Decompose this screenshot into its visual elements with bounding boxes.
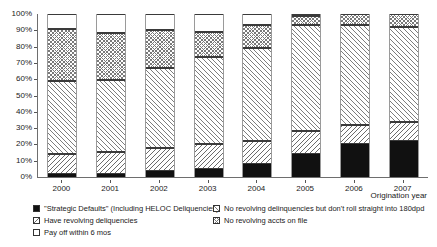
chart-legend: "Strategic Defaults" (Including HELOC De…	[33, 204, 433, 244]
bar-group	[242, 14, 272, 177]
y-tick-label: 50%	[16, 92, 32, 100]
x-tick-mark	[159, 180, 160, 183]
bar-segment[interactable]	[146, 68, 174, 149]
bar-segment[interactable]	[146, 30, 174, 67]
legend-item[interactable]: "Strategic Defaults" (Including HELOC De…	[33, 204, 219, 213]
bar-segment[interactable]	[195, 14, 223, 32]
bar-segment[interactable]	[341, 25, 369, 124]
bar-segment[interactable]	[97, 14, 125, 33]
bar-segment[interactable]	[390, 27, 418, 122]
bar-segment[interactable]	[146, 14, 174, 30]
plot-area	[37, 14, 428, 178]
bar-group	[389, 14, 419, 177]
legend-swatch-icon	[33, 229, 40, 236]
legend-item[interactable]: No revolving accts on file	[213, 216, 307, 225]
legend-swatch-icon	[213, 217, 220, 224]
bar-stack[interactable]	[242, 14, 272, 177]
bar-stack[interactable]	[340, 14, 370, 177]
bar-stack[interactable]	[194, 14, 224, 177]
y-tick-label: 30%	[16, 124, 32, 132]
legend-item-label: Have revolving deliquencies	[44, 216, 137, 225]
bar-segment[interactable]	[292, 131, 320, 154]
bar-segment[interactable]	[97, 152, 125, 174]
bar-segment[interactable]	[48, 14, 76, 29]
bar-group	[340, 14, 370, 177]
bar-segment[interactable]	[243, 48, 271, 141]
stacked-bar-chart: 0%10%20%30%40%50%60%70%80%90%100% 200020…	[0, 0, 437, 247]
legend-item-label: No revolving delinquencies but don't rol…	[224, 204, 424, 213]
y-tick-label: 70%	[16, 59, 32, 67]
bar-segment[interactable]	[195, 32, 223, 57]
bar-segment[interactable]	[146, 171, 174, 177]
x-tick-mark	[256, 180, 257, 183]
x-tick-mark	[208, 180, 209, 183]
bar-segment[interactable]	[390, 122, 418, 142]
bar-stack[interactable]	[291, 14, 321, 177]
bar-segment[interactable]	[243, 25, 271, 48]
bar-stack[interactable]	[47, 14, 77, 177]
bar-segment[interactable]	[292, 14, 320, 16]
legend-item[interactable]: No revolving delinquencies but don't rol…	[213, 204, 424, 213]
legend-item-label: No revolving accts on file	[224, 216, 307, 225]
bar-segment[interactable]	[341, 144, 369, 177]
bar-segment[interactable]	[243, 164, 271, 177]
x-tick-mark	[305, 180, 306, 183]
bar-stack[interactable]	[96, 14, 126, 177]
bar-group	[145, 14, 175, 177]
legend-swatch-icon	[213, 205, 220, 212]
bar-segment[interactable]	[341, 125, 369, 145]
legend-item-label: Pay off within 6 mos	[44, 228, 111, 237]
bar-segment[interactable]	[390, 14, 418, 27]
bar-segment[interactable]	[243, 14, 271, 25]
y-tick-label: 40%	[16, 108, 32, 116]
y-tick-label: 10%	[16, 157, 32, 165]
bar-segment[interactable]	[292, 25, 320, 131]
bar-segment[interactable]	[48, 29, 76, 81]
bar-segment[interactable]	[97, 33, 125, 80]
bar-segment[interactable]	[390, 141, 418, 177]
bars-layer	[38, 14, 428, 177]
x-axis-title: Origination year	[0, 191, 427, 200]
y-tick-label: 100%	[12, 10, 32, 18]
legend-item[interactable]: Have revolving deliquencies	[33, 216, 137, 225]
y-tick-label: 80%	[16, 43, 32, 51]
bar-segment[interactable]	[48, 174, 76, 177]
y-tick-label: 20%	[16, 140, 32, 148]
bar-group	[291, 14, 321, 177]
y-tick-label: 0%	[20, 173, 32, 181]
bar-segment[interactable]	[195, 169, 223, 177]
y-tick-label: 90%	[16, 26, 32, 34]
x-tick-mark	[403, 180, 404, 183]
bar-stack[interactable]	[145, 14, 175, 177]
legend-item-label: "Strategic Defaults" (Including HELOC De…	[44, 204, 219, 213]
bar-segment[interactable]	[341, 14, 369, 25]
bar-segment[interactable]	[97, 174, 125, 177]
x-tick-mark	[61, 180, 62, 183]
bar-segment[interactable]	[48, 81, 76, 154]
legend-swatch-icon	[33, 205, 40, 212]
bar-group	[194, 14, 224, 177]
bar-segment[interactable]	[292, 154, 320, 177]
plot-wrapper: 0%10%20%30%40%50%60%70%80%90%100% 200020…	[0, 0, 437, 196]
x-tick-mark	[110, 180, 111, 183]
x-tick-mark	[354, 180, 355, 183]
bar-group	[96, 14, 126, 177]
bar-stack[interactable]	[389, 14, 419, 177]
bar-group	[47, 14, 77, 177]
legend-item[interactable]: Pay off within 6 mos	[33, 228, 111, 237]
bar-segment[interactable]	[292, 16, 320, 26]
y-tick-label: 60%	[16, 75, 32, 83]
bar-segment[interactable]	[97, 80, 125, 152]
bar-segment[interactable]	[195, 144, 223, 168]
y-axis: 0%10%20%30%40%50%60%70%80%90%100%	[0, 0, 34, 196]
bar-segment[interactable]	[48, 154, 76, 174]
bar-segment[interactable]	[195, 57, 223, 144]
bar-segment[interactable]	[243, 141, 271, 164]
legend-swatch-icon	[33, 217, 40, 224]
bar-segment[interactable]	[146, 148, 174, 171]
